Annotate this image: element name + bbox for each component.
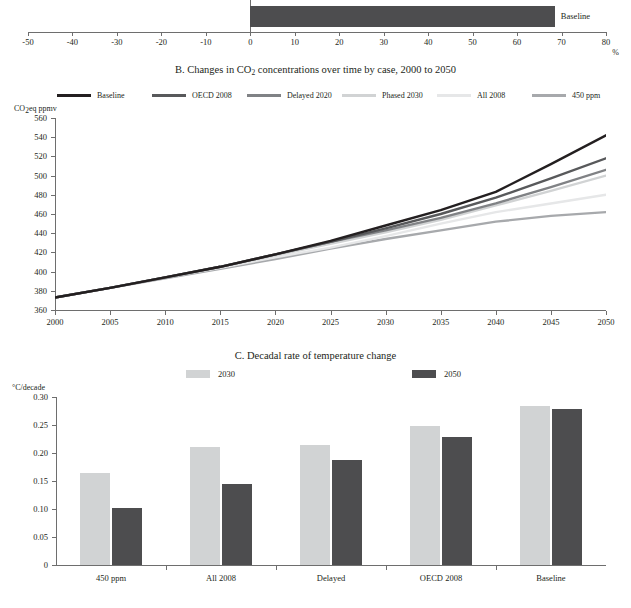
panel-c-y-tick <box>52 509 56 510</box>
panel-b-line-450-ppm <box>55 212 606 297</box>
panel-a-x-tick-label: 60 <box>513 37 522 47</box>
panel-b-y-tick-label: 560 <box>34 113 47 123</box>
panel-c-legend-swatch <box>186 370 210 378</box>
panel-b-legend: BaselineOECD 2008Delayed 2020Phased 2030… <box>0 88 631 102</box>
panel-b-y-tick-label: 500 <box>34 171 47 181</box>
panel-c-bar <box>300 445 330 565</box>
panel-b-y-tick-label: 420 <box>34 247 47 257</box>
panel-a-x-tick <box>473 32 474 36</box>
panel-b-y-tick-label: 460 <box>34 209 47 219</box>
panel-c-y-tick-label: 0.25 <box>33 420 48 430</box>
panel-a-x-axis-line <box>28 32 606 33</box>
panel-a-x-tick <box>28 32 29 36</box>
panel-c-bar <box>442 437 472 565</box>
panel-c-y-tick-label: 0.15 <box>33 476 48 486</box>
panel-b-x-tick-label: 2045 <box>542 317 559 327</box>
panel-b-legend-label: Baseline <box>97 91 125 100</box>
panel-b-x-tick <box>441 311 442 315</box>
panel-c-x-tick <box>386 566 387 570</box>
panel-b-y-label-suffix: eq ppmv <box>29 104 57 113</box>
panel-b-y-tick-label: 400 <box>34 267 47 277</box>
panel-b-legend-item[interactable]: OECD 2008 <box>152 88 232 102</box>
panel-a-x-tick <box>517 32 518 36</box>
panel-c-x-axis-line <box>56 565 606 566</box>
panel-a-x-tick-label: -50 <box>22 37 33 47</box>
panel-a-x-tick-label: -20 <box>156 37 167 47</box>
panel-c-plot-area <box>56 397 606 565</box>
panel-b-legend-swatch <box>247 94 281 97</box>
panel-b-legend-label: OECD 2008 <box>192 91 232 100</box>
panel-b-legend-item[interactable]: Baseline <box>57 88 125 102</box>
panel-a-x-tick <box>384 32 385 36</box>
panel-b-y-tick-label: 440 <box>34 228 47 238</box>
panel-b-x-tick <box>386 311 387 315</box>
panel-c-y-tick <box>52 425 56 426</box>
panel-c-x-tick <box>496 566 497 570</box>
panel-c-y-tick-label: 0.10 <box>33 504 48 514</box>
panel-c-y-tick-label: 0.30 <box>33 392 48 402</box>
panel-b-title: B. Changes in CO2 concentrations over ti… <box>0 64 631 77</box>
panel-b-x-tick-label: 2000 <box>47 317 64 327</box>
panel-b-line-chart: CO2eq ppmv 36038040042044046048050052054… <box>0 104 631 344</box>
panel-b-title-suffix: concentrations over time by case, 2000 t… <box>255 64 456 75</box>
panel-c-bar <box>222 484 252 565</box>
panel-c-y-tick-label: 0.05 <box>33 532 48 542</box>
panel-c-bar <box>80 473 110 565</box>
panel-c-bar <box>112 508 142 565</box>
panel-b-x-tick-label: 2040 <box>487 317 504 327</box>
panel-c-title: C. Decadal rate of temperature change <box>0 350 631 361</box>
panel-b-x-tick <box>606 311 607 315</box>
panel-c-legend-label: 2050 <box>444 369 461 379</box>
panel-a-x-tick-label: -30 <box>111 37 122 47</box>
panel-c-bar <box>332 460 362 565</box>
panel-c-x-tick-label: Baseline <box>536 573 565 583</box>
panel-b-legend-item[interactable]: All 2008 <box>437 88 505 102</box>
panel-a-x-tick-label: 50 <box>468 37 477 47</box>
panel-b-x-tick-label: 2015 <box>212 317 229 327</box>
panel-b-legend-swatch <box>57 94 91 97</box>
panel-b-line-baseline <box>55 135 606 297</box>
panel-a-x-tick-label: -40 <box>67 37 78 47</box>
panel-a-x-tick <box>295 32 296 36</box>
panel-c-x-tick-label: Delayed <box>317 573 345 583</box>
panel-b-y-tick-label: 520 <box>34 151 47 161</box>
panel-b-x-tick-label: 2005 <box>102 317 119 327</box>
panel-b-x-tick <box>110 311 111 315</box>
panel-b-x-tick <box>551 311 552 315</box>
panel-a-x-tick-label: -10 <box>200 37 211 47</box>
panel-b-x-tick-label: 2035 <box>432 317 449 327</box>
panel-c-y-tick <box>52 453 56 454</box>
panel-b-y-tick-label: 480 <box>34 190 47 200</box>
panel-b-legend-item[interactable]: Phased 2030 <box>342 88 423 102</box>
panel-a-x-tick <box>339 32 340 36</box>
panel-b-legend-label: 450 ppm <box>572 91 600 100</box>
panel-c-y-axis-line <box>56 397 57 565</box>
panel-b-legend-item[interactable]: 450 ppm <box>532 88 600 102</box>
panel-c-x-tick-label: 450 ppm <box>96 573 126 583</box>
panel-c-bar <box>410 426 440 565</box>
panel-c-bar-chart: °C/decade 00.050.100.150.200.250.30 450 … <box>0 383 631 608</box>
panel-a-x-tick <box>206 32 207 36</box>
panel-c-legend-item[interactable]: 2050 <box>412 367 461 381</box>
panel-c-bar <box>520 406 550 565</box>
panel-a-x-tick-label: 20 <box>335 37 344 47</box>
panel-b-legend-label: All 2008 <box>477 91 505 100</box>
panel-b-x-tick <box>55 311 56 315</box>
panel-c-bar <box>552 409 582 565</box>
panel-b-legend-swatch <box>532 94 566 97</box>
panel-c-x-tick-label: OECD 2008 <box>420 573 462 583</box>
panel-a-x-tick-label: 80 <box>602 37 611 47</box>
panel-a-x-tick <box>161 32 162 36</box>
panel-b-x-tick-label: 2030 <box>377 317 394 327</box>
panel-b-x-tick <box>220 311 221 315</box>
panel-b-x-tick <box>496 311 497 315</box>
panel-c-y-tick <box>52 481 56 482</box>
panel-c-y-tick <box>52 397 56 398</box>
panel-b-x-tick <box>165 311 166 315</box>
panel-a-x-tick <box>562 32 563 36</box>
panel-b-x-tick-label: 2025 <box>322 317 339 327</box>
panel-b-legend-item[interactable]: Delayed 2020 <box>247 88 332 102</box>
panel-c-y-tick <box>52 565 56 566</box>
panel-c-legend-item[interactable]: 2030 <box>186 367 235 381</box>
panel-c-legend-label: 2030 <box>218 369 235 379</box>
